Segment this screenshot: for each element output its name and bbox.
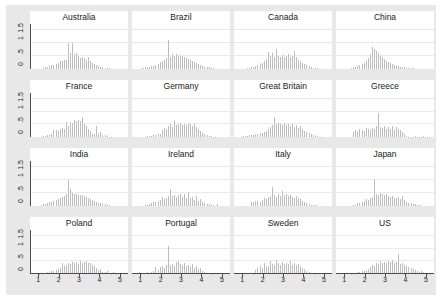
histogram-panel: China xyxy=(336,11,434,78)
x-axis-tick-label: 1 xyxy=(240,276,244,283)
histogram-panel: Ireland xyxy=(132,148,230,215)
bar-series xyxy=(132,24,230,69)
x-axis-line xyxy=(336,273,434,274)
bar-series xyxy=(30,24,128,69)
x-axis-ticks: 12345 xyxy=(336,274,434,283)
x-axis-line xyxy=(30,273,128,274)
panel-title: Japan xyxy=(336,148,434,161)
panel-title: Canada xyxy=(234,11,332,24)
y-axis-tick-label: 1.5 xyxy=(17,92,24,102)
y-axis-tick-label: 1 xyxy=(17,242,24,246)
panel-title: Australia xyxy=(30,11,128,24)
x-axis-tick-label: 5 xyxy=(322,276,326,283)
y-axis-line xyxy=(30,161,31,206)
x-axis-tick-label: 3 xyxy=(179,276,183,283)
plot-area xyxy=(30,24,128,69)
histogram-panel: Canada xyxy=(234,11,332,78)
bar-series xyxy=(132,93,230,138)
y-axis-tick-label: 1.5 xyxy=(17,23,24,33)
bar-series xyxy=(132,230,230,275)
plot-area xyxy=(336,93,434,138)
panel-title: Great Britain xyxy=(234,80,332,93)
plot-area xyxy=(234,24,332,69)
x-axis-tick-label: 4 xyxy=(301,276,305,283)
x-axis-tick-label: 2 xyxy=(57,276,61,283)
bar-series xyxy=(30,230,128,275)
plot-area xyxy=(132,93,230,138)
x-axis-tick-label: 3 xyxy=(77,276,81,283)
y-axis-tick-label: 0 xyxy=(17,130,24,134)
y-axis-tick-label: .5 xyxy=(17,254,24,260)
y-axis-line xyxy=(30,93,31,138)
y-axis-tick-label: .5 xyxy=(17,49,24,55)
plot-area xyxy=(234,93,332,138)
y-axis-tick-label: 1 xyxy=(17,105,24,109)
panel-title: Sweden xyxy=(234,217,332,230)
bar-series xyxy=(234,93,332,138)
bar-series xyxy=(30,93,128,138)
y-axis-tick-label: .5 xyxy=(17,117,24,123)
histogram-panel: Poland12345 xyxy=(30,217,128,284)
histogram-panel: Australia xyxy=(30,11,128,78)
x-axis-tick-label: 4 xyxy=(97,276,101,283)
x-axis-tick-label: 3 xyxy=(281,276,285,283)
x-axis-tick-label: 1 xyxy=(36,276,40,283)
x-axis-tick-label: 3 xyxy=(383,276,387,283)
x-axis-ticks: 12345 xyxy=(234,274,332,283)
bar-series xyxy=(336,93,434,138)
plot-area xyxy=(132,161,230,206)
plot-area xyxy=(30,230,128,275)
histogram-panel: Portugal12345 xyxy=(132,217,230,284)
x-axis-ticks: 12345 xyxy=(132,274,230,283)
y-axis-line xyxy=(30,230,31,275)
bar-series xyxy=(234,230,332,275)
panel-grid: AustraliaBrazilCanadaChinaFranceGermanyG… xyxy=(30,11,434,283)
y-axis-tick-label: 1 xyxy=(17,173,24,177)
x-axis-tick-label: 1 xyxy=(138,276,142,283)
plot-area xyxy=(234,161,332,206)
y-axis-tick-label: 1.5 xyxy=(17,160,24,170)
histogram-panel: Brazil xyxy=(132,11,230,78)
panel-title: Brazil xyxy=(132,11,230,24)
histogram-panel: Germany xyxy=(132,80,230,147)
plot-area xyxy=(234,230,332,275)
panel-title: Germany xyxy=(132,80,230,93)
x-axis-line xyxy=(234,273,332,274)
x-axis-tick-label: 2 xyxy=(261,276,265,283)
plot-area xyxy=(336,230,434,275)
panel-title: China xyxy=(336,11,434,24)
plot-region: 0.511.50.511.50.511.50.511.5 AustraliaBr… xyxy=(6,5,436,295)
y-axis-tick-label: .5 xyxy=(17,186,24,192)
bar-series xyxy=(234,161,332,206)
y-axis-tick-label: 0 xyxy=(17,267,24,271)
histogram-panel: Greece xyxy=(336,80,434,147)
x-axis-tick-label: 2 xyxy=(159,276,163,283)
histogram-panel: Sweden12345 xyxy=(234,217,332,284)
x-axis-tick-label: 5 xyxy=(118,276,122,283)
panel-title: Greece xyxy=(336,80,434,93)
histogram-panel: Japan xyxy=(336,148,434,215)
plot-area xyxy=(132,24,230,69)
histogram-panel: France xyxy=(30,80,128,147)
x-axis-tick-label: 5 xyxy=(220,276,224,283)
plot-area xyxy=(336,161,434,206)
plot-area xyxy=(30,161,128,206)
plot-area xyxy=(30,93,128,138)
bar-series xyxy=(234,24,332,69)
x-axis-tick-label: 4 xyxy=(199,276,203,283)
x-axis-line xyxy=(132,273,230,274)
plot-area xyxy=(132,230,230,275)
bar-series xyxy=(336,161,434,206)
bar-series xyxy=(336,230,434,275)
y-axis-tick-label: 0 xyxy=(17,62,24,66)
y-axis-tick-label: 1.5 xyxy=(17,229,24,239)
x-axis-ticks: 12345 xyxy=(30,274,128,283)
bar-series xyxy=(30,161,128,206)
panel-title: Ireland xyxy=(132,148,230,161)
plot-area xyxy=(336,24,434,69)
x-axis-tick-label: 2 xyxy=(363,276,367,283)
histogram-bar xyxy=(216,204,218,205)
panel-title: Italy xyxy=(234,148,332,161)
y-axis-tick-label: 0 xyxy=(17,199,24,203)
panel-title: France xyxy=(30,80,128,93)
